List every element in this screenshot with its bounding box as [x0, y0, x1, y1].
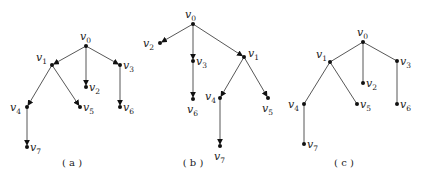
- vertex-v0: [84, 44, 88, 48]
- vertex-v2: [158, 41, 162, 45]
- vertex-v2: [84, 85, 88, 89]
- vertex-label-v6: v6: [123, 101, 134, 116]
- vertex-v3: [395, 59, 399, 63]
- vertex-v1: [242, 55, 246, 59]
- edge-v0-v3: [363, 42, 397, 61]
- vertex-v3: [118, 63, 122, 67]
- vertex-label-v5: v5: [83, 101, 94, 116]
- edge-v0-v1: [54, 46, 86, 64]
- vertex-label-v2: v2: [143, 37, 154, 52]
- vertex-label-v7: v7: [307, 138, 318, 153]
- panel-b-directed-tree: v0v2v3v1v6v4v5v7( b ): [143, 8, 273, 168]
- vertex-label-v4: v4: [288, 98, 299, 113]
- vertex-v5: [266, 96, 270, 100]
- vertex-v5: [355, 102, 359, 106]
- edge-v0-v2: [162, 24, 193, 42]
- vertex-v5: [78, 105, 82, 109]
- vertex-label-v1: v1: [316, 48, 327, 63]
- tree-diagram-figure: v0v1v2v3v4v5v6v7( a ) v0v2v3v1v6v4v5v7( …: [0, 0, 422, 181]
- panel-c-undirected-tree: v0v1v2v3v4v5v6v7( c ): [288, 26, 411, 168]
- edge-v1-v5: [330, 62, 357, 104]
- vertex-v7: [302, 142, 306, 146]
- vertex-v6: [191, 97, 195, 101]
- panel-caption-b: ( b ): [183, 157, 204, 168]
- edge-v1-v4: [304, 62, 330, 104]
- vertex-v7: [25, 145, 29, 149]
- vertex-v0: [191, 22, 195, 26]
- edge-v1-v5: [52, 65, 79, 105]
- vertex-label-v4: v4: [10, 101, 21, 116]
- vertex-v3: [191, 59, 195, 63]
- vertex-label-v1: v1: [248, 47, 259, 62]
- vertex-v2: [361, 81, 365, 85]
- vertex-label-v4: v4: [205, 90, 216, 105]
- vertex-label-v0: v0: [80, 30, 91, 45]
- edge-v1-v5: [244, 57, 267, 96]
- panel-caption-c: ( c ): [334, 157, 354, 168]
- vertex-v6: [118, 105, 122, 109]
- vertex-label-v0: v0: [357, 26, 368, 41]
- vertex-label-v6: v6: [400, 98, 411, 113]
- edge-v0-v1: [193, 24, 242, 56]
- vertex-v0: [361, 40, 365, 44]
- edge-v0-v1: [330, 42, 363, 62]
- vertex-v4: [25, 105, 29, 109]
- vertex-label-v2: v2: [89, 81, 100, 96]
- vertex-label-v2: v2: [366, 77, 377, 92]
- edge-v1-v4: [28, 65, 52, 105]
- panel-caption-a: ( a ): [62, 157, 82, 168]
- vertex-v1: [328, 60, 332, 64]
- vertex-v1: [50, 63, 54, 67]
- edge-v0-v3: [86, 46, 118, 64]
- vertex-label-v6: v6: [187, 103, 198, 118]
- panel-a-directed-tree: v0v1v2v3v4v5v6v7( a ): [10, 30, 134, 168]
- vertex-label-v1: v1: [36, 51, 47, 66]
- vertex-label-v5: v5: [360, 98, 371, 113]
- vertex-v6: [395, 102, 399, 106]
- vertex-label-v3: v3: [123, 59, 134, 74]
- vertex-label-v3: v3: [400, 55, 411, 70]
- vertex-v4: [218, 96, 222, 100]
- vertex-label-v7: v7: [214, 150, 225, 165]
- edge-v1-v4: [221, 57, 244, 96]
- vertex-label-v7: v7: [30, 141, 41, 156]
- vertex-label-v0: v0: [185, 8, 196, 23]
- vertex-v4: [302, 102, 306, 106]
- vertex-v7: [218, 144, 222, 148]
- vertex-label-v5: v5: [262, 102, 273, 117]
- vertex-label-v3: v3: [196, 55, 207, 70]
